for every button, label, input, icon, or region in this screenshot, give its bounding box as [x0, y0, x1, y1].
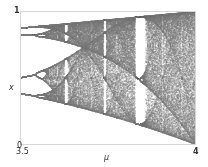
x-axis-title: μ: [104, 154, 109, 162]
plot-frame: [20, 11, 196, 145]
x-tick-label-min: 3.5: [16, 148, 29, 156]
y-tick-label-max: 1: [14, 7, 20, 15]
x-tick-label-max: 4: [193, 148, 199, 156]
y-axis-title: x: [9, 84, 14, 92]
bifurcation-figure: 1 0 3.5 4 μ x: [0, 0, 208, 167]
